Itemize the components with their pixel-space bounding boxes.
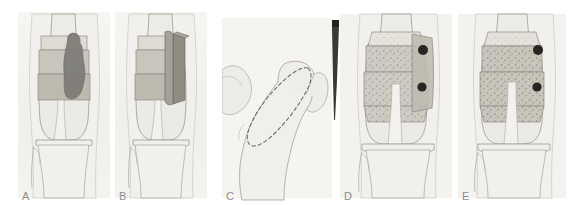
resection-block-side [173, 34, 185, 104]
panel-a[interactable]: A [18, 0, 110, 205]
panel-e-illustration [458, 0, 566, 205]
panel-d-illustration [340, 0, 452, 205]
screw-lower [532, 82, 541, 91]
tibia [135, 145, 186, 198]
screw-upper [533, 45, 543, 55]
panel-c[interactable]: C [222, 0, 332, 205]
panel-b-label: B [119, 190, 127, 202]
tibia [366, 150, 430, 198]
panel-c-illustration [222, 0, 332, 205]
panel-c-label: C [226, 190, 234, 202]
osteotome-icon [330, 20, 340, 122]
screw-lower [417, 82, 426, 91]
tibia [38, 145, 89, 198]
surgical-figure: A B [0, 0, 569, 205]
panel-a-label: A [22, 190, 30, 202]
panel-e-label: E [462, 190, 470, 202]
panel-b[interactable]: B [115, 0, 207, 205]
panel-a-illustration [18, 0, 110, 205]
allograft-band-mid [482, 46, 542, 72]
tibia [482, 150, 546, 198]
panel-d[interactable]: D [340, 0, 452, 205]
panel-d-label: D [344, 190, 352, 202]
screw-upper [418, 45, 428, 55]
panel-e[interactable]: E [458, 0, 566, 205]
panel-b-illustration [115, 0, 207, 205]
resection-block-face [165, 31, 173, 105]
allograft-band-upper [484, 32, 540, 46]
